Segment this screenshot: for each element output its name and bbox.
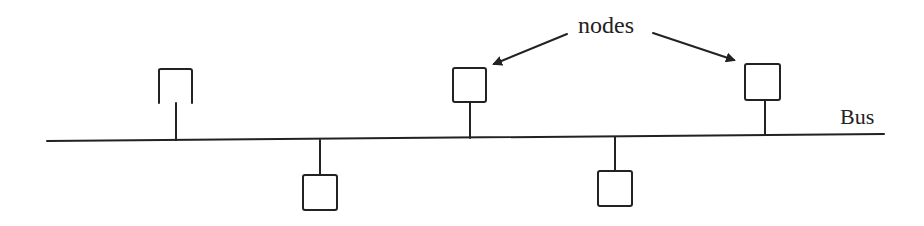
node-4 <box>598 137 632 206</box>
node-2-box <box>303 175 337 210</box>
node-3-box <box>453 68 486 102</box>
node-5-box <box>745 64 780 100</box>
arrow-to-node-3 <box>494 34 567 64</box>
node-1 <box>159 69 192 140</box>
node-4-box <box>598 171 632 206</box>
bus-line <box>47 134 884 141</box>
bus-topology-diagram: Bus nodes <box>0 0 924 226</box>
bus-label: Bus <box>840 104 874 129</box>
nodes-label: nodes <box>578 12 634 38</box>
arrow-to-node-5 <box>653 33 734 60</box>
node-3 <box>453 68 486 138</box>
node-2 <box>303 140 337 210</box>
node-1-box <box>159 69 192 103</box>
node-5 <box>745 64 780 135</box>
